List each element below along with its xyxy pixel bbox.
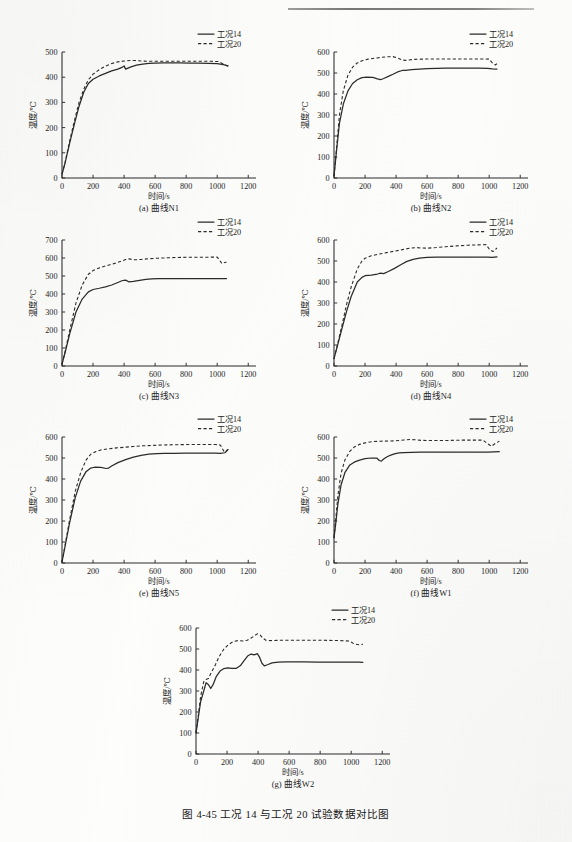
x-tick-label: 0 [332,182,336,191]
y-tick-label: 100 [45,149,57,158]
x-tick-label: 600 [421,370,433,379]
y-tick-label: 0 [53,559,57,568]
x-tick-label: 200 [87,182,99,191]
y-axis-label: 温度/℃ [162,677,172,705]
x-tick-label: 0 [194,758,198,767]
y-tick-label: 0 [53,362,57,371]
y-tick-label: 300 [45,496,57,505]
series-line-solid [62,279,227,365]
y-tick-label: 200 [317,517,329,526]
y-tick-label: 500 [179,645,191,654]
legend-label: 工况20 [217,40,241,49]
y-tick-label: 300 [317,299,329,308]
x-tick-label: 400 [390,567,402,576]
x-tick-label: 1200 [240,567,256,576]
y-axis-label: 温度/℃ [300,486,310,514]
y-tick-label: 300 [45,308,57,317]
y-tick-label: 500 [317,257,329,266]
x-axis-label: 时间/s [148,379,170,389]
subplot-caption: (e) 曲线N5 [139,587,179,598]
y-tick-label: 400 [317,475,329,484]
y-axis-label: 温度/℃ [28,101,38,129]
legend-label: 工况14 [351,606,375,615]
y-tick-label: 600 [317,433,329,442]
y-tick-label: 600 [179,624,191,633]
chart-c: 0100200300400500600700020040060080010001… [18,214,270,400]
x-tick-label: 800 [452,370,464,379]
series-line-solid [196,654,363,733]
subplot-caption: (g) 曲线W2 [272,778,315,789]
x-tick-label: 600 [149,567,161,576]
y-tick-label: 600 [317,48,329,57]
y-tick-label: 100 [317,538,329,547]
x-tick-label: 600 [149,370,161,379]
y-tick-label: 0 [325,559,329,568]
x-tick-label: 1200 [512,182,528,191]
x-tick-label: 400 [252,758,264,767]
chart-b: 0100200300400500600020040060080010001200… [290,26,542,212]
x-tick-label: 400 [118,182,130,191]
series-line-solid [334,257,497,359]
x-tick-label: 600 [283,758,295,767]
chart-g: 0100200300400500600020040060080010001200… [152,602,404,788]
x-tick-label: 200 [359,182,371,191]
x-axis-label: 时间/s [148,191,170,201]
y-tick-label: 600 [45,254,57,263]
x-axis-label: 时间/s [420,576,442,586]
header-rule [288,8,534,10]
x-tick-label: 0 [60,370,64,379]
y-tick-label: 0 [53,174,57,183]
x-tick-label: 800 [452,567,464,576]
series-line-dashed [334,245,497,359]
y-tick-label: 400 [45,290,57,299]
x-tick-label: 1200 [240,370,256,379]
x-tick-label: 1000 [209,182,225,191]
y-tick-label: 0 [325,174,329,183]
subplot-caption: (c) 曲线N3 [139,390,179,401]
subplot-caption: (f) 曲线W1 [410,587,451,598]
series-line-solid [334,452,499,538]
x-tick-label: 800 [180,370,192,379]
y-tick-label: 200 [45,517,57,526]
legend-label: 工况14 [489,415,513,424]
chart-f: 0100200300400500600020040060080010001200… [290,411,542,597]
x-tick-label: 1200 [512,370,528,379]
chart-a: 0100200300400500020040060080010001200时间/… [18,26,270,212]
figure-caption: 图 4-45 工况 14 与工况 20 试验数据对比图 [0,806,572,821]
y-tick-label: 100 [45,344,57,353]
legend-label: 工况14 [489,218,513,227]
y-tick-label: 500 [45,454,57,463]
x-tick-label: 600 [421,567,433,576]
x-tick-label: 800 [180,182,192,191]
y-tick-label: 700 [45,236,57,245]
y-tick-label: 400 [317,90,329,99]
y-tick-label: 0 [325,362,329,371]
x-tick-label: 0 [332,370,336,379]
x-tick-label: 200 [221,758,233,767]
y-tick-label: 200 [45,124,57,133]
y-tick-label: 300 [317,111,329,120]
x-tick-label: 800 [314,758,326,767]
x-tick-label: 200 [359,567,371,576]
y-tick-label: 500 [317,69,329,78]
y-axis-label: 温度/℃ [300,101,310,129]
document-page: 0100200300400500020040060080010001200时间/… [0,0,572,842]
subplot-caption: (a) 曲线N1 [139,202,179,213]
y-tick-label: 300 [317,496,329,505]
x-tick-label: 400 [390,370,402,379]
x-tick-label: 1000 [209,370,225,379]
y-tick-label: 400 [179,666,191,675]
y-axis-label: 温度/℃ [28,289,38,317]
x-tick-label: 1000 [481,182,497,191]
x-tick-label: 600 [421,182,433,191]
y-tick-label: 600 [45,433,57,442]
series-line-solid [62,450,228,562]
legend-label: 工况20 [217,425,241,434]
x-tick-label: 1000 [343,758,359,767]
series-line-solid [62,63,228,174]
x-tick-label: 400 [118,567,130,576]
x-tick-label: 400 [390,182,402,191]
chart-e: 0100200300400500600020040060080010001200… [18,411,270,597]
series-line-dashed [62,61,228,175]
y-tick-label: 400 [45,475,57,484]
